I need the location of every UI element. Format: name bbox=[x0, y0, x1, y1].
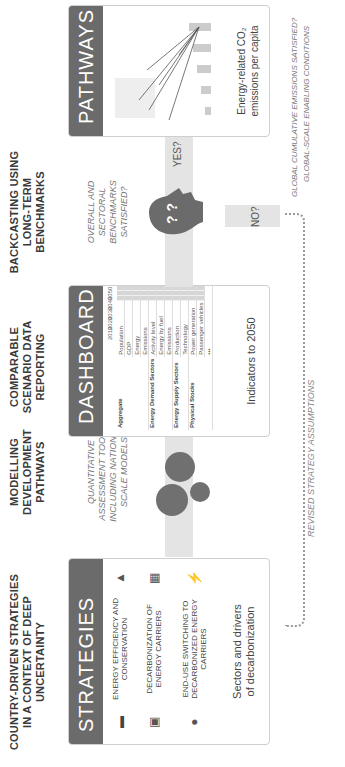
flame-icon: ▲ bbox=[116, 566, 125, 590]
feedback-loop-line bbox=[285, 213, 305, 627]
feedback-label: REVISED STRATEGY ASSUMPTIONS bbox=[306, 380, 316, 537]
gears-icon bbox=[150, 442, 215, 522]
dashboard-header: DASHBOARD bbox=[69, 286, 103, 436]
car-icon: ▬ bbox=[116, 708, 125, 736]
no-label: NO? bbox=[250, 206, 261, 227]
dashboard-footer: Indicators to 2050 bbox=[245, 286, 258, 436]
col-title-reporting: COMPARABLE SCENARIO DATA REPORTING bbox=[8, 297, 47, 437]
strategies-footer: Sectors and drivers of decarbonization bbox=[231, 559, 257, 744]
strategy-label: END-USE SWITCHING TO DECARBONIZED ENERGY… bbox=[181, 590, 208, 708]
lightning-icon: ⚡ bbox=[190, 566, 199, 590]
indicator-table: AggregatePopulation GDP Energy Emissions… bbox=[117, 286, 213, 430]
global-conditions: GLOBAL-SCALE ENABLING CONDITIONS bbox=[302, 26, 311, 182]
col-title-backcasting: BACKCASTING USING LONG-TERM BENCHMARKS bbox=[8, 137, 47, 287]
strategy-label: ENERGY EFFICIENCY AND CONSERVATION bbox=[111, 590, 129, 708]
global-question: GLOBAL CUMULATIVE EMISSIONS SATISFIED? bbox=[290, 18, 299, 197]
dashboard-panel: DASHBOARD 2010 2020 2030 2040 2050 Aggre… bbox=[68, 285, 270, 437]
drop-icon: ● bbox=[190, 708, 199, 736]
strategies-panel: STRATEGIES ▬ ENERGY EFFICIENCY AND CONSE… bbox=[68, 558, 270, 745]
backcasting-subtitle: OVERALL AND SECTORAL BENCHMARKS SATISFIE… bbox=[86, 162, 130, 262]
yes-label: YES? bbox=[172, 141, 183, 167]
col-title-strategies: COUNTRY-DRIVEN STRATEGIES IN A CONTEXT O… bbox=[8, 567, 47, 757]
svg-text:? ?: ? ? bbox=[164, 203, 180, 224]
strategy-item: ▬ ENERGY EFFICIENCY AND CONSERVATION ▲ bbox=[111, 566, 129, 736]
dashboard-years: 2010 2020 2030 2040 2050 bbox=[107, 290, 113, 340]
pathways-header: PATHWAYS bbox=[69, 6, 103, 136]
thinking-head-icon: ? ? bbox=[145, 182, 210, 242]
strategies-header: STRATEGIES bbox=[69, 559, 103, 744]
building-icon: ▦ bbox=[150, 566, 159, 590]
strategy-label: DECARBONIZATION OF ENERGY CARRIERS bbox=[145, 590, 163, 708]
pathways-footer: Energy-related CO₂ emissions per capita bbox=[235, 6, 261, 136]
strategy-item: ● END-USE SWITCHING TO DECARBONIZED ENER… bbox=[181, 566, 208, 736]
strategy-item: ▣ DECARBONIZATION OF ENERGY CARRIERS ▦ bbox=[145, 566, 163, 736]
factory-icon: ▣ bbox=[150, 708, 159, 736]
pathways-panel: PATHWAYS Energy-related CO₂ emissions pe… bbox=[68, 5, 270, 137]
pathways-chart bbox=[109, 12, 219, 130]
deep-decarbonization-diagram: COUNTRY-DRIVEN STRATEGIES IN A CONTEXT O… bbox=[0, 0, 345, 767]
